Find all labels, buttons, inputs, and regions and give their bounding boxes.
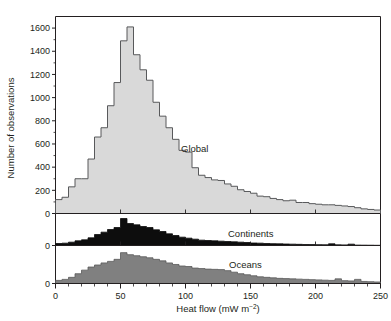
x-tick-label: 100: [178, 291, 193, 301]
y-tick-label: 600: [35, 139, 50, 149]
x-axis-title: Heat flow (mW m−2): [176, 303, 259, 315]
histogram-global: [56, 27, 381, 214]
y-tick-label: 400: [35, 162, 50, 172]
y-tick-label: 800: [35, 116, 50, 126]
panel-oceans: [56, 253, 381, 284]
histogram-oceans: [56, 253, 381, 284]
y-tick-label: 200: [35, 186, 50, 196]
y-tick-label: 1000: [30, 93, 50, 103]
panel-continents: [56, 219, 381, 246]
x-tick-label: 200: [308, 291, 323, 301]
y-tick-label-zero: 0: [45, 279, 50, 289]
histogram-continents: [56, 219, 381, 246]
x-tick-label: 250: [373, 291, 388, 301]
y-tick-label: 1400: [30, 46, 50, 56]
histogram-chart: 0200400600800100012001400160000050100150…: [0, 0, 391, 321]
x-tick-label: 50: [115, 291, 125, 301]
heat-flow-histogram-figure: 0200400600800100012001400160000050100150…: [0, 0, 391, 321]
y-tick-label-zero: 0: [45, 241, 50, 251]
series-label-global: Global: [181, 143, 208, 154]
panel-global: [56, 27, 381, 214]
y-tick-label: 1200: [30, 70, 50, 80]
y-tick-label: 1600: [30, 23, 50, 33]
series-label-continents: Continents: [228, 228, 274, 239]
series-label-oceans: Oceans: [229, 259, 262, 270]
x-tick-label: 150: [243, 291, 258, 301]
y-axis-title: Number of observations: [5, 77, 16, 178]
y-tick-label: 0: [45, 209, 50, 219]
x-tick-label: 0: [53, 291, 58, 301]
